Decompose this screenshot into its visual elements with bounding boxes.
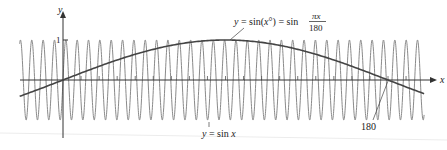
y-tick-label-1: 1 bbox=[56, 35, 61, 45]
sin-degree-label-denominator: 180 bbox=[309, 23, 323, 33]
y-axis-label: y bbox=[57, 4, 63, 15]
x-axis-ticks bbox=[81, 76, 406, 80]
sine-comparison-chart: y x 1 y = sin(x°) = sin πx 180 y = sin x… bbox=[0, 0, 447, 150]
x-axis-arrow-icon bbox=[430, 77, 437, 83]
x-intercept-label: 180 bbox=[361, 121, 376, 132]
sin-degree-leader bbox=[230, 28, 244, 40]
sin-degree-label: y = sin(x°) = sin bbox=[233, 16, 298, 28]
sin-x-label: y = sin x bbox=[201, 128, 236, 139]
sin-degree-label-numerator: πx bbox=[312, 11, 321, 21]
x-axis-label: x bbox=[439, 74, 445, 85]
